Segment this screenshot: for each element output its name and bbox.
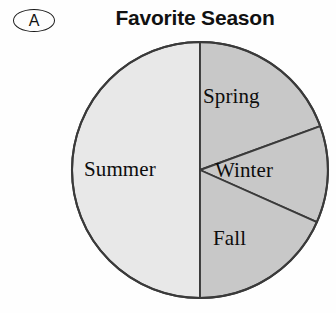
pie-label-fall: Fall [213, 226, 246, 251]
pie-label-summer: Summer [84, 157, 156, 182]
pie-label-spring: Spring [203, 84, 260, 109]
pie-chart: Summer Spring Winter Fall [0, 0, 336, 313]
pie-label-winter: Winter [215, 158, 273, 183]
worksheet-page: A Favorite Season Summer Spring Winter F… [0, 0, 336, 313]
pie-chart-svg [0, 0, 336, 313]
